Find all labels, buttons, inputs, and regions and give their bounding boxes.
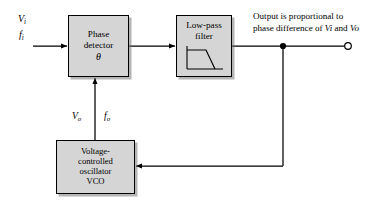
input-frequency-subscript: i: [22, 34, 24, 42]
output-note-v-output-subscript: o: [354, 23, 359, 33]
vco-line4: VCO: [86, 177, 104, 187]
output-note-line2-prefix: phase difference of: [253, 23, 325, 33]
vco-block: Voltage- controlled oscillator VCO: [56, 140, 135, 194]
phase-detector-theta-symbol: θ: [96, 50, 101, 63]
low-pass-filter-line2: filter: [195, 31, 213, 42]
phase-detector-line1: Phase: [88, 29, 109, 40]
feedback-frequency-label: fo: [104, 111, 110, 122]
input-voltage-subscript: i: [24, 18, 26, 26]
output-note-conjunction: and: [332, 23, 350, 33]
feedback-voltage-subscript: o: [78, 115, 81, 122]
pll-block-diagram: Vi fi Phase detector θ Low-pass filter O…: [0, 0, 390, 201]
output-note-line1: Output is proportional to: [253, 11, 343, 21]
low-pass-filter-block: Low-pass filter: [176, 15, 232, 77]
feedback-frequency-subscript: o: [107, 115, 110, 122]
feedback-voltage-label: Vo: [72, 111, 81, 122]
low-pass-filter-line1: Low-pass: [186, 20, 222, 31]
output-description-text: Output is proportional to phase differen…: [253, 10, 390, 35]
phase-detector-line2: detector: [84, 40, 114, 51]
open-terminal-circle-icon: [345, 43, 352, 50]
input-voltage-label: Vi: [18, 13, 26, 26]
low-pass-response-curve-icon: [182, 44, 226, 72]
phase-detector-block: Phase detector θ: [68, 15, 129, 77]
input-frequency-label: fi: [19, 29, 24, 42]
